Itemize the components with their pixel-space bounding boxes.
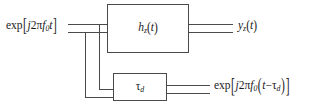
- input-exp-function: exp: [6, 19, 23, 31]
- delay-output-bracket-open: [: [231, 75, 235, 96]
- delay-block[interactable]: τd: [113, 73, 167, 101]
- output-paren-close: ): [253, 18, 257, 33]
- delay-output-label: exp[j2πf0(t−τd)]: [214, 80, 290, 93]
- filter-paren-close: ): [154, 20, 158, 35]
- filter-block[interactable]: hz(t): [107, 4, 189, 53]
- delay-output-exp-function: exp: [214, 79, 231, 91]
- filter-block-label: hz(t): [138, 22, 158, 35]
- filter-output-label: yz(t): [238, 20, 257, 33]
- input-signal-label: exp[j2πf0t]: [6, 20, 57, 33]
- input-bracket-open: [: [23, 17, 27, 35]
- delay-output-bracket-close: ]: [286, 75, 290, 96]
- output-paren-open: (: [246, 18, 250, 33]
- filter-paren-open: (: [147, 20, 151, 35]
- delay-output-tau-subscript: d: [277, 84, 281, 93]
- delay-output-paren-open: (: [258, 77, 262, 95]
- delay-tau-subscript: d: [140, 85, 144, 94]
- delay-output-paren-close: ): [281, 77, 285, 95]
- block-diagram: exp[j2πf0t] hz(t) τd yz(t) exp[j2πf0(t−τ…: [0, 0, 316, 109]
- delay-block-label: τd: [136, 81, 145, 94]
- input-bracket-close: ]: [53, 17, 57, 35]
- delay-output-f-subscript: 0: [253, 84, 257, 93]
